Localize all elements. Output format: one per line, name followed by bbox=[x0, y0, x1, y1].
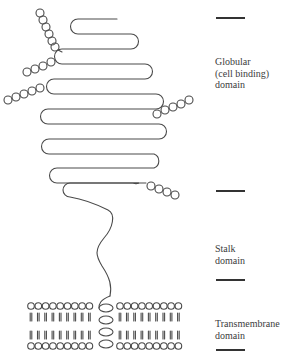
domain-divider-top bbox=[216, 17, 245, 19]
domain-divider-bottom bbox=[216, 349, 245, 351]
sugar-chain-top bbox=[36, 9, 62, 52]
sugar-chain-upper-right bbox=[153, 96, 193, 118]
polypeptide-stalk bbox=[63, 183, 146, 296]
lipid-bilayer-right bbox=[117, 303, 182, 350]
domain-divider-globular-stalk bbox=[216, 190, 245, 192]
label-transmembrane-domain: Transmembrane domain bbox=[215, 318, 280, 341]
polypeptide-globular-fold bbox=[41, 19, 167, 184]
sugar-chain-lower-right bbox=[147, 182, 179, 199]
label-stalk-domain: Stalk domain bbox=[215, 243, 245, 266]
label-globular-domain: Globular (cell binding) domain bbox=[215, 56, 269, 91]
glycoprotein-diagram bbox=[0, 0, 283, 352]
lipid-bilayer-left bbox=[28, 303, 93, 350]
domain-divider-stalk-transmembrane bbox=[216, 279, 245, 281]
sugar-chain-lower-left bbox=[4, 84, 44, 104]
sugar-chain-upper-left bbox=[23, 58, 55, 76]
transmembrane-helix bbox=[99, 296, 113, 348]
